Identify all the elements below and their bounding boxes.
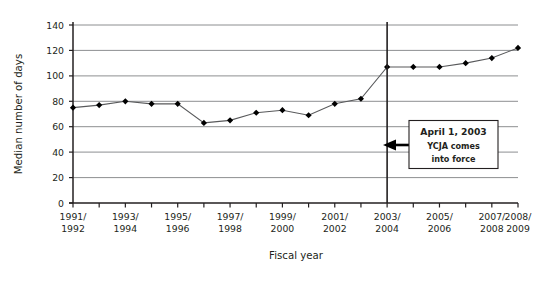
- x-tick-label: 1992: [61, 223, 85, 234]
- callout-line-3: into force: [431, 154, 476, 164]
- y-tick-label: 100: [46, 70, 64, 81]
- y-tick-label: 140: [46, 20, 64, 31]
- x-tick-labels: 1991/19921993/19941995/19961997/19981999…: [60, 211, 533, 234]
- x-tick-label: 1999/: [269, 211, 297, 222]
- x-tick-label: 1994: [114, 223, 138, 234]
- x-tick-label: 2001/: [321, 211, 349, 222]
- x-tick-label: 1991/: [60, 211, 88, 222]
- x-tick-label: 1998: [218, 223, 242, 234]
- x-tick-label: 2006: [428, 223, 452, 234]
- callout-line-1: April 1, 2003: [420, 126, 486, 137]
- y-tick-label: 80: [52, 96, 64, 107]
- x-tick-label: 2008: [480, 223, 504, 234]
- y-tick-label: 20: [52, 172, 64, 183]
- chart-canvas: 140 120 100 80 60 40 20 0 Median number …: [0, 0, 558, 287]
- x-tick-label: 1997/: [217, 211, 245, 222]
- y-tick-label: 40: [52, 147, 64, 158]
- x-tick-label: 2009: [506, 223, 530, 234]
- x-axis-title: Fiscal year: [269, 250, 324, 261]
- x-tick-label: 2002: [323, 223, 347, 234]
- x-tick-label: 2005/: [426, 211, 454, 222]
- y-tick-label: 120: [46, 45, 64, 56]
- y-tick-labels: 140 120 100 80 60 40 20 0: [46, 20, 64, 209]
- plot-area: [73, 25, 518, 203]
- line-chart: 140 120 100 80 60 40 20 0 Median number …: [0, 0, 558, 287]
- x-tick-label: 1993/: [112, 211, 140, 222]
- y-axis-title: Median number of days: [13, 54, 24, 174]
- callout-line-2: YCJA comes: [426, 141, 480, 151]
- x-tick-label: 2003/: [374, 211, 402, 222]
- y-tick-label: 0: [58, 198, 64, 209]
- x-tick-label: 2004: [375, 223, 399, 234]
- x-tick-label: 1996: [166, 223, 190, 234]
- y-tick-label: 60: [52, 121, 64, 132]
- x-tick-label: 2000: [271, 223, 295, 234]
- x-tick-label: 2007/: [478, 211, 506, 222]
- x-tick-label: 1995/: [164, 211, 192, 222]
- x-tick-label: 2008/: [505, 211, 533, 222]
